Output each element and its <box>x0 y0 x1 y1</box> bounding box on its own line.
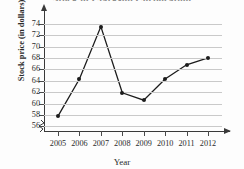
gridline <box>44 69 222 70</box>
x-axis-tick <box>122 131 123 136</box>
data-point <box>206 56 210 60</box>
x-axis-tick <box>165 131 166 136</box>
line-chart: Stock of Clarkson Corporation Stock pric… <box>0 0 244 169</box>
x-axis-tick <box>101 131 102 136</box>
gridline <box>44 47 222 48</box>
gridline <box>44 58 222 59</box>
gridline <box>44 35 222 36</box>
arrow-up-icon <box>41 4 47 11</box>
chart-title: Stock of Clarkson Corporation <box>0 0 244 1</box>
gridline <box>44 92 222 93</box>
y-axis-tick-label: 58 <box>10 111 40 119</box>
x-axis-tick <box>187 131 188 136</box>
plot-area: 5658606264666870727420052006200720082009… <box>44 18 222 131</box>
gridline <box>44 24 222 25</box>
y-axis-tick-label: 60 <box>10 100 40 108</box>
y-axis-tick-label: 62 <box>10 88 40 96</box>
data-point <box>99 25 103 29</box>
x-axis-tick <box>79 131 80 136</box>
y-axis-tick-label: 66 <box>10 65 40 73</box>
x-axis-tick <box>208 131 209 136</box>
x-axis-line <box>44 131 230 132</box>
x-axis-tick <box>144 131 145 136</box>
gridline <box>44 126 222 127</box>
y-axis-tick-label: 56 <box>10 122 40 130</box>
x-axis-tick-label: 2012 <box>191 139 225 148</box>
y-axis-tick-label: 70 <box>10 43 40 51</box>
y-axis-tick-label: 74 <box>10 20 40 28</box>
gridline <box>44 104 222 105</box>
data-point <box>142 98 146 102</box>
x-axis-title: Year <box>0 157 244 167</box>
y-axis-tick-label: 72 <box>10 31 40 39</box>
gridline <box>44 115 222 116</box>
data-point <box>185 63 189 67</box>
gridline <box>44 81 222 82</box>
x-axis-tick <box>58 131 59 136</box>
y-axis-tick-label: 68 <box>10 54 40 62</box>
y-axis-tick-label: 64 <box>10 77 40 85</box>
arrow-right-icon <box>224 128 231 134</box>
